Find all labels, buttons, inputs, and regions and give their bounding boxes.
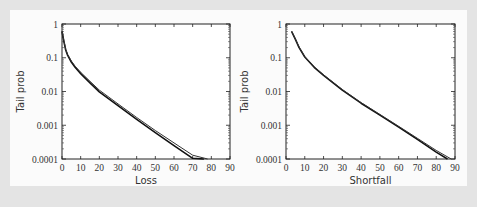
x-axis-label: Shortfall [349,175,391,186]
x-tick-label: 80 [431,163,441,173]
x-tick-label: 0 [60,163,65,173]
x-tick-label: 90 [450,163,460,173]
y-tick-label: 0.001 [37,121,59,131]
x-tick-label: 20 [95,163,105,173]
x-tick-label: 40 [356,163,366,173]
x-tick-label: 60 [394,163,404,173]
x-tick-label: 50 [151,163,161,173]
y-tick-label: 0.0001 [256,155,282,165]
x-tick-label: 0 [284,163,289,173]
x-tick-label: 80 [207,163,217,173]
x-tick-label: 70 [188,163,198,173]
chart-figure: 010203040506070809010.10.010.0010.0001Lo… [0,0,477,207]
y-tick-label: 0.1 [270,53,282,63]
x-tick-label: 30 [113,163,123,173]
plot-shortfall: 010203040506070809010.10.010.0010.0001Sh… [239,20,460,187]
y-axis-label: Tail prob [15,70,26,113]
x-tick-label: 10 [76,163,86,173]
x-axis-label: Loss [135,175,157,186]
x-tick-label: 60 [169,163,179,173]
x-tick-label: 70 [413,163,423,173]
x-tick-label: 10 [300,163,310,173]
y-tick-label: 0.001 [261,121,283,131]
plot-loss: 010203040506070809010.10.010.0010.0001Lo… [15,20,235,187]
y-tick-label: 0.01 [265,87,282,97]
y-tick-label: 0.0001 [32,155,58,165]
y-tick-label: 1 [53,20,58,30]
y-axis-label: Tail prob [239,70,250,113]
y-tick-label: 0.01 [41,87,58,97]
x-tick-label: 40 [132,163,142,173]
plot-area [62,24,230,159]
y-tick-label: 0.1 [46,53,58,63]
x-tick-label: 50 [375,163,385,173]
x-tick-label: 90 [225,163,235,173]
x-tick-label: 20 [319,163,329,173]
x-tick-label: 30 [338,163,348,173]
y-tick-label: 1 [277,20,282,30]
plot-area [286,24,455,159]
